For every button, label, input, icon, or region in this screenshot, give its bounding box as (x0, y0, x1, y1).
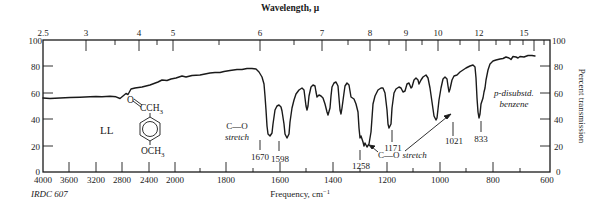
top-axis-ticks (86, 40, 544, 51)
sample-label: LL (100, 124, 114, 136)
left-axis-ticks (43, 66, 53, 146)
bottom-tick-label: 4000 (34, 175, 53, 185)
top-tick-label: 10 (434, 28, 444, 38)
bottom-tick-label: 1400 (324, 175, 343, 185)
top-axis-tick-labels: 2.5 3 4 5 6 7 8 9 10 12 15 (37, 28, 529, 38)
co-stretch-arrows (369, 114, 451, 152)
left-tick-label: 40 (31, 115, 41, 125)
left-tick-label: 20 (31, 142, 41, 152)
bottom-tick-label: 2400 (140, 175, 159, 185)
right-tick-label: 20 (554, 142, 564, 152)
carbonyl-stretch-word: stretch (225, 132, 250, 142)
bottom-tick-label: 600 (540, 175, 554, 185)
top-tick-label: 8 (368, 28, 373, 38)
peak-label-833: 833 (474, 134, 488, 144)
top-tick-label: 4 (137, 28, 142, 38)
bottom-tick-label: 1600 (271, 175, 290, 185)
pdisub-label-line1: p-disubstd. (493, 88, 534, 98)
structure-acetyl-group: CCH3 (140, 103, 164, 116)
bottom-axis-ticks (69, 162, 520, 172)
structure-carbonyl-oxygen: O (127, 95, 134, 105)
bottom-tick-label: 800 (486, 175, 500, 185)
right-tick-label: 100 (552, 36, 566, 46)
right-tick-label: 60 (554, 89, 564, 99)
right-tick-label: 80 (554, 62, 564, 72)
source-label: IRDC 607 (30, 189, 68, 199)
top-tick-label: 15 (520, 28, 530, 38)
left-tick-label: 100 (29, 36, 43, 46)
top-tick-label: 3 (84, 28, 89, 38)
left-axis-tick-labels: 100 80 60 40 20 0 (29, 36, 43, 177)
bottom-tick-label: 2800 (113, 175, 132, 185)
right-axis-ticks (540, 66, 550, 146)
right-tick-label: 0 (556, 167, 561, 177)
right-tick-label: 40 (554, 115, 564, 125)
top-tick-label: 12 (475, 28, 484, 38)
bottom-tick-label: 3600 (60, 175, 79, 185)
peak-label-1670: 1670 (251, 152, 270, 162)
bottom-tick-label: 1000 (431, 175, 450, 185)
top-tick-label: 6 (258, 28, 263, 38)
left-tick-label: 80 (31, 62, 41, 72)
bottom-tick-label: 1800 (217, 175, 236, 185)
top-tick-label: 5 (171, 28, 176, 38)
bottom-tick-label: 3200 (87, 175, 106, 185)
frequency-axis-title: Frequency, cm−1 (270, 188, 330, 199)
bottom-tick-label: 1200 (378, 175, 397, 185)
structure-methoxy-group: OCH3 (141, 146, 165, 159)
right-axis-tick-labels: 100 80 60 40 20 0 (552, 36, 566, 177)
top-tick-label: 7 (320, 28, 325, 38)
ir-spectrum-chart: Wavelength, μ 2.5 3 4 5 6 7 8 9 10 12 (0, 0, 597, 209)
benzene-ring (140, 117, 160, 141)
left-tick-label: 60 (31, 89, 41, 99)
chemical-structure: O CCH3 OCH3 (127, 95, 165, 159)
wavelength-axis-title: Wavelength, μ (261, 3, 320, 13)
pdisub-label-line2: benzene (500, 99, 529, 109)
carbonyl-stretch-label: C—O (226, 121, 248, 131)
co-stretch-label: C—Ostretch (378, 150, 427, 160)
peak-label-1598: 1598 (271, 154, 290, 164)
top-tick-label: 9 (404, 28, 409, 38)
peak-label-1021: 1021 (445, 136, 463, 146)
plot-frame (43, 40, 550, 172)
peak-label-1258: 1258 (352, 161, 371, 171)
spectrum-curve (43, 56, 535, 148)
bottom-tick-label: 2000 (166, 175, 185, 185)
y-axis-title: Percent transmission (577, 69, 587, 144)
bottom-axis-tick-labels: 4000 3600 3200 2800 2400 2000 1800 1600 … (34, 175, 554, 185)
